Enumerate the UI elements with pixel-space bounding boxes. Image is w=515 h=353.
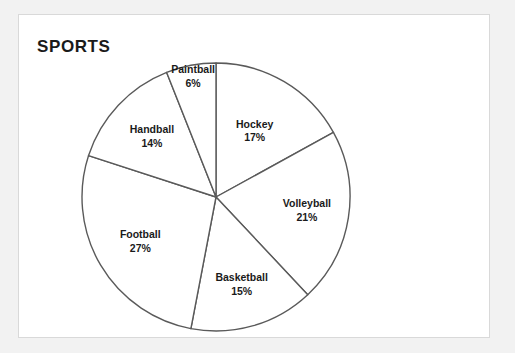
slice-label-volleyball: Volleyball 21%: [283, 198, 331, 226]
slice-label-paintball: Paintball 6%: [171, 63, 215, 91]
slice-label-basketball-name: Basketball: [215, 271, 268, 283]
slice-label-football-name: Football: [120, 228, 161, 240]
slice-label-basketball: Basketball 15%: [215, 271, 268, 299]
slice-label-football: Football 27%: [120, 228, 161, 256]
slice-label-volleyball-name: Volleyball: [283, 198, 331, 210]
slice-label-handball-name: Handball: [130, 123, 174, 135]
slice-label-hockey-name: Hockey: [236, 118, 273, 130]
slice-label-paintball-value: 6%: [171, 77, 215, 91]
slice-label-paintball-name: Paintball: [171, 63, 215, 75]
page-title: SPORTS: [37, 37, 111, 57]
slice-label-handball-value: 14%: [130, 137, 174, 151]
slice-label-hockey-value: 17%: [236, 132, 273, 146]
slice-label-volleyball-value: 21%: [283, 211, 331, 225]
slice-label-handball: Handball 14%: [130, 123, 174, 151]
slice-label-football-value: 27%: [120, 242, 161, 256]
slice-label-hockey: Hockey 17%: [236, 118, 273, 146]
slice-label-basketball-value: 15%: [215, 285, 268, 299]
